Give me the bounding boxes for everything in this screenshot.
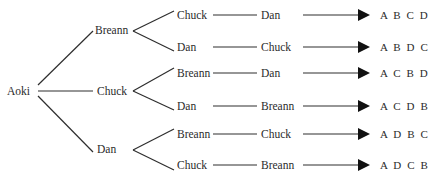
node-l2-row5: Breann xyxy=(177,128,210,140)
node-l2-row1: Chuck xyxy=(177,9,207,21)
node-l2-row2: Dan xyxy=(177,41,196,53)
node-l3-row3: Dan xyxy=(261,67,280,79)
edge-chuck-breann xyxy=(133,68,174,91)
edge-aoki-dan xyxy=(38,96,93,152)
node-l2-row4: Dan xyxy=(177,100,196,112)
arrow-row1 xyxy=(303,9,370,21)
node-l3-row6: Breann xyxy=(261,159,294,171)
arrow-row4 xyxy=(303,100,370,112)
edge-dan-breann xyxy=(133,129,174,150)
node-l1-breann: Breann xyxy=(95,24,128,36)
arrow-row3 xyxy=(303,67,370,79)
node-l3-row1: Dan xyxy=(261,9,280,21)
node-l3-row5: Chuck xyxy=(261,128,291,140)
edge-aoki-breann xyxy=(38,31,93,85)
node-l2-row3: Breann xyxy=(177,67,210,79)
result-row3: A C B D xyxy=(380,67,429,79)
result-row4: A C D B xyxy=(380,100,429,112)
node-l3-row2: Chuck xyxy=(261,41,291,53)
edge-breann-chuck xyxy=(133,11,174,31)
result-row2: A B D C xyxy=(380,41,429,53)
arrow-row5 xyxy=(303,128,370,140)
node-root: Aoki xyxy=(7,85,30,97)
node-l2-row6: Chuck xyxy=(177,159,207,171)
edge-breann-dan xyxy=(133,31,174,51)
result-row5: A D B C xyxy=(380,128,429,140)
node-l1-chuck: Chuck xyxy=(97,85,127,97)
result-row6: A D C B xyxy=(380,159,429,171)
edge-dan-chuck xyxy=(133,150,174,170)
arrow-row6 xyxy=(303,159,370,171)
edge-chuck-dan xyxy=(133,91,174,110)
node-l1-dan: Dan xyxy=(97,143,116,155)
node-l3-row4: Breann xyxy=(261,100,294,112)
arrow-row2 xyxy=(303,41,370,53)
result-row1: A B C D xyxy=(380,9,429,21)
